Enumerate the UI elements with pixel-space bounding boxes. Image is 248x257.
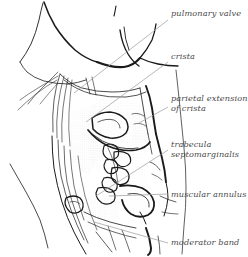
anatomical-figure: pulmonary valvecristaparietal extensiono… [0,0,248,257]
label-crista: crista [171,52,195,62]
label-pulmonary-valve: pulmonary valve [171,9,241,19]
label-trabecula-septomarginalis: trabeculaseptomarginalis [171,140,239,159]
label-parietal-extension-of-crista-line-2: of crista [171,104,248,114]
label-trabecula-septomarginalis-line-2: septomarginalis [171,150,239,160]
label-crista-line-1: crista [171,52,195,62]
label-moderator-band-line-1: moderator band [171,238,239,248]
label-pulmonary-valve-line-1: pulmonary valve [171,9,241,19]
leader-line-moderator-band [94,222,168,243]
anatomy-drawing [0,0,248,257]
label-parietal-extension-of-crista: parietal extensionof crista [171,94,248,113]
stipple-shading [70,98,156,230]
leader-line-pulmonary-valve [74,20,168,93]
label-moderator-band: moderator band [171,238,239,248]
label-muscular-annulus: muscular annulus [171,190,247,200]
label-muscular-annulus-line-1: muscular annulus [171,190,247,200]
